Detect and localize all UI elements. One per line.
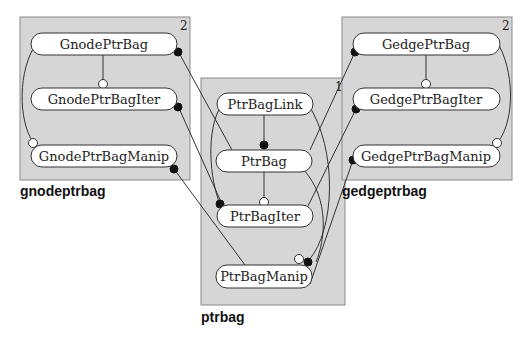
open-circle-icon	[295, 255, 304, 264]
open-circle-icon	[422, 80, 431, 89]
svg-text:PtrBagLink: PtrBagLink	[228, 97, 303, 112]
node-gedgeptrbagmanip: GedgePtrBagManip	[353, 145, 500, 167]
svg-text:GnodePtrBagManip: GnodePtrBagManip	[39, 149, 169, 164]
filled-circle-icon	[304, 258, 312, 266]
package-label-gedgeptrbag: gedgeptrbag	[342, 183, 427, 199]
package-label-ptrbag: ptrbag	[201, 309, 245, 325]
node-ptrbagmanip: PtrBagManip	[216, 265, 312, 288]
svg-text:GnodePtrBagIter: GnodePtrBagIter	[48, 92, 161, 107]
filled-circle-icon	[260, 141, 268, 149]
dependency-diagram: 2 1 2 gnodeptrbag ptrbag gedgeptrbag	[0, 0, 532, 337]
svg-text:GedgePtrBag: GedgePtrBag	[382, 37, 470, 52]
node-gedgeptrbagiter: GedgePtrBagIter	[353, 88, 500, 110]
node-gedgeptrbag: GedgePtrBag	[353, 33, 500, 55]
svg-text:PtrBagIter: PtrBagIter	[230, 209, 301, 224]
node-gnodeptrbagiter: GnodePtrBagIter	[31, 88, 177, 110]
node-ptrbag: PtrBag	[216, 150, 312, 172]
node-gnodeptrbag: GnodePtrBag	[31, 33, 177, 55]
node-ptrbagiter: PtrBagIter	[217, 205, 313, 227]
svg-text:PtrBagManip: PtrBagManip	[220, 269, 308, 284]
svg-text:PtrBag: PtrBag	[241, 154, 287, 169]
svg-text:GedgePtrBagManip: GedgePtrBagManip	[361, 149, 491, 164]
svg-text:GedgePtrBagIter: GedgePtrBagIter	[370, 92, 483, 107]
level-number-gedgeptrbag: 2	[502, 19, 510, 33]
package-label-gnodeptrbag: gnodeptrbag	[20, 183, 106, 199]
node-ptrbaglink: PtrBagLink	[217, 93, 313, 115]
open-circle-icon	[99, 80, 108, 89]
level-number-gnodeptrbag: 2	[180, 19, 188, 33]
node-gnodeptrbagmanip: GnodePtrBagManip	[31, 145, 177, 167]
svg-text:GnodePtrBag: GnodePtrBag	[60, 37, 148, 52]
